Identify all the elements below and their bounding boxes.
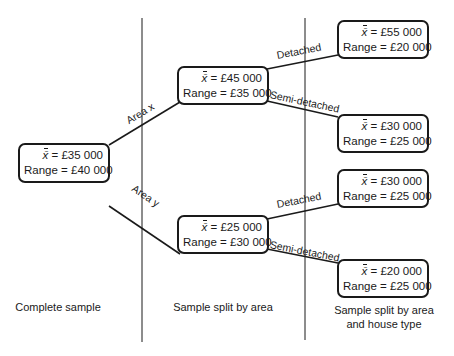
node-area-x-detached: x̄ = £55 000 Range = £20 000 [337, 20, 429, 59]
range-value: Range = £25 000 [343, 189, 422, 204]
node-complete-sample: x̄ = £35 000 Range = £40 000 [18, 143, 110, 183]
mean-symbol: x̄ [43, 148, 49, 163]
mean-value: = £35 000 [52, 149, 103, 161]
mean-value: = £20 000 [371, 265, 422, 277]
mean-symbol: x̄ [362, 264, 368, 279]
column-label-line-1: Sample split by area [322, 303, 446, 317]
column-label-split-by-area: Sample split by area [163, 300, 283, 314]
mean-symbol: x̄ [362, 174, 368, 189]
mean-value: = £25 000 [211, 221, 262, 233]
mean-symbol: x̄ [362, 119, 368, 134]
range-value: Range = £20 000 [343, 40, 422, 55]
node-area-y-semi-detached: x̄ = £20 000 Range = £25 000 [337, 259, 429, 298]
mean-value: = £55 000 [371, 26, 422, 38]
node-area-y: x̄ = £25 000 Range = £30 000 [177, 215, 269, 254]
range-value: Range = £25 000 [343, 134, 422, 149]
mean-value: = £30 000 [371, 120, 422, 132]
mean-symbol: x̄ [202, 71, 208, 86]
mean-symbol: x̄ [202, 220, 208, 235]
mean-value: = £30 000 [371, 175, 422, 187]
node-area-x: x̄ = £45 000 Range = £35 000 [177, 66, 269, 105]
node-area-y-detached: x̄ = £30 000 Range = £25 000 [337, 169, 429, 208]
range-value: Range = £40 000 [24, 163, 103, 178]
column-label-complete-sample: Complete sample [8, 300, 108, 314]
range-value: Range = £35 000 [183, 86, 262, 101]
node-area-x-semi-detached: x̄ = £30 000 Range = £25 000 [337, 114, 429, 153]
mean-symbol: x̄ [362, 25, 368, 40]
range-value: Range = £25 000 [343, 279, 422, 294]
mean-value: = £45 000 [211, 72, 262, 84]
range-value: Range = £30 000 [183, 235, 262, 250]
edge-area-y [109, 206, 180, 254]
column-label-split-by-area-and-type: Sample split by area and house type [322, 303, 446, 331]
column-label-line-2: and house type [322, 317, 446, 331]
